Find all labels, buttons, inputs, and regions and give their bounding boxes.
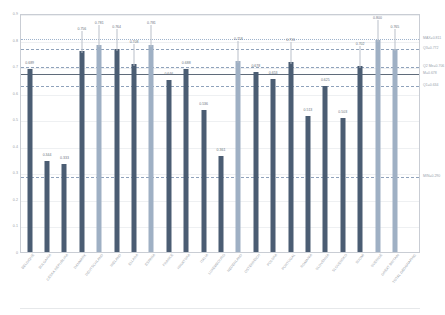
x-axis-label: OSTERREICH: [243, 253, 261, 274]
bar-slot[interactable]: 0.653: [264, 15, 281, 252]
bar-slot[interactable]: 0.708: [125, 15, 142, 252]
y-axis-tick-label: 0.3: [13, 171, 18, 175]
y-axis-tick-label: 0.8: [13, 39, 18, 43]
reference-label-q3: Q3=0.772: [423, 46, 438, 50]
y-axis-tick-label: 0.5: [13, 118, 18, 122]
x-axis-label: HRVATSKA: [177, 253, 192, 270]
reference-label-q1: Q1=0.634: [423, 83, 438, 87]
bar-value-label: 0.689: [25, 61, 34, 65]
bar[interactable]: [236, 61, 241, 252]
bar-value-leader: [360, 46, 361, 68]
bar[interactable]: [62, 164, 67, 252]
bar-value-leader: [377, 20, 378, 42]
bar[interactable]: [392, 49, 397, 252]
bar-slot[interactable]: 0.718: [230, 15, 247, 252]
bar-value-label: 0.536: [199, 102, 208, 106]
x-axis-label: DEUTSCHLAND: [85, 253, 105, 277]
x-axis-label: BELGIQUE: [20, 253, 34, 270]
bar-slot[interactable]: 0.800: [369, 15, 386, 252]
y-axis: 0.90.80.70.60.50.40.30.20.10: [0, 14, 18, 253]
bar[interactable]: [340, 118, 345, 252]
bar[interactable]: [184, 69, 189, 252]
bar-slot[interactable]: 0.625: [317, 15, 334, 252]
bar-value-label: 0.344: [43, 153, 52, 157]
bar[interactable]: [271, 79, 276, 252]
bar-value-leader: [99, 25, 100, 47]
bar[interactable]: [97, 45, 102, 252]
x-axis-label: ROMANIA: [300, 253, 313, 269]
bar[interactable]: [358, 66, 363, 252]
bar-value-leader: [116, 29, 117, 51]
bar-chart: 0.90.80.70.60.50.40.30.20.10 0.6890.3440…: [0, 0, 445, 315]
bar-slot[interactable]: 0.333: [56, 15, 73, 252]
y-axis-tick-label: 0.2: [13, 198, 18, 202]
bar-slot[interactable]: 0.689: [21, 15, 38, 252]
bar[interactable]: [166, 80, 171, 252]
x-axis-label: PORTUGAL: [280, 253, 295, 271]
bar-slot[interactable]: 0.781: [91, 15, 108, 252]
bar-value-label: 0.688: [182, 61, 191, 65]
bar-slot[interactable]: 0.344: [38, 15, 55, 252]
x-axis-label: BULGARIA: [38, 253, 52, 270]
bar-slot[interactable]: 0.756: [73, 15, 90, 252]
x-axis-label: SLOVENIJA: [315, 253, 330, 271]
bar-slot[interactable]: 0.716: [282, 15, 299, 252]
bar-value-label: 0.646: [164, 72, 173, 76]
bar-slot[interactable]: 0.361: [212, 15, 229, 252]
bar-value-label: 0.653: [269, 71, 278, 75]
bar[interactable]: [201, 110, 206, 252]
bar-slot[interactable]: 0.764: [108, 15, 125, 252]
bar-slot[interactable]: 0.503: [334, 15, 351, 252]
bar[interactable]: [79, 51, 84, 252]
x-axis-label: ESPANA: [145, 253, 157, 267]
bar-slot[interactable]: 0.702: [351, 15, 368, 252]
bar-value-leader: [81, 31, 82, 53]
bar-slot[interactable]: 0.678: [247, 15, 264, 252]
bar[interactable]: [27, 69, 32, 252]
y-axis-tick-label: 0.1: [13, 224, 18, 228]
bar-slot[interactable]: [404, 15, 421, 252]
y-axis-tick-label: 0.6: [13, 92, 18, 96]
x-axis-label: SVERIGE: [370, 253, 383, 268]
bar-slot[interactable]: 0.513: [299, 15, 316, 252]
bar-value-label: 0.333: [60, 156, 69, 160]
bar-value-label: 0.625: [321, 78, 330, 82]
bar-value-label: 0.513: [304, 108, 313, 112]
x-axis-label: SUOMI: [355, 253, 365, 265]
bar-slot[interactable]: 0.781: [143, 15, 160, 252]
x-axis-label: NEDERLAND: [227, 253, 244, 273]
bar-slot[interactable]: 0.765: [386, 15, 403, 252]
bar-slot[interactable]: 0.536: [195, 15, 212, 252]
y-axis-tick-label: 0: [16, 251, 18, 255]
reference-label-max: MAX=0.811: [423, 36, 441, 40]
plot-area: 0.6890.3440.3330.7560.7810.7640.7080.781…: [20, 14, 420, 253]
bar-slot[interactable]: 0.688: [178, 15, 195, 252]
bar[interactable]: [132, 64, 137, 252]
bar-slot[interactable]: 0.646: [160, 15, 177, 252]
bar-value-leader: [394, 29, 395, 51]
bar[interactable]: [288, 62, 293, 252]
bar-value-leader: [238, 41, 239, 63]
y-axis-tick-label: 0.9: [13, 12, 18, 16]
bar-series: 0.6890.3440.3330.7560.7810.7640.7080.781…: [21, 15, 419, 252]
reference-label-min: MIN=0.290: [423, 174, 440, 178]
y-axis-tick-label: 0.4: [13, 145, 18, 149]
reference-label-mean: M=0.678: [423, 71, 437, 75]
bar[interactable]: [375, 40, 380, 252]
x-axis-label: DANMARK: [73, 253, 87, 270]
x-axis-label: POLSKA: [266, 253, 278, 267]
bar-value-leader: [134, 44, 135, 66]
reference-label-q2_med: Q2 Me=0.706: [423, 64, 444, 68]
bar-value-label: 0.678: [251, 64, 260, 68]
bar[interactable]: [149, 45, 154, 252]
bar-value-label: 0.361: [217, 148, 226, 152]
footer-divider: [20, 308, 420, 309]
x-axis-label: ELLADA: [128, 253, 140, 266]
bar[interactable]: [45, 161, 50, 252]
bar[interactable]: [114, 49, 119, 252]
bar[interactable]: [323, 86, 328, 252]
bar[interactable]: [218, 156, 223, 252]
y-axis-tick-label: 0.7: [13, 65, 18, 69]
bar[interactable]: [305, 116, 310, 252]
bar[interactable]: [253, 72, 258, 252]
